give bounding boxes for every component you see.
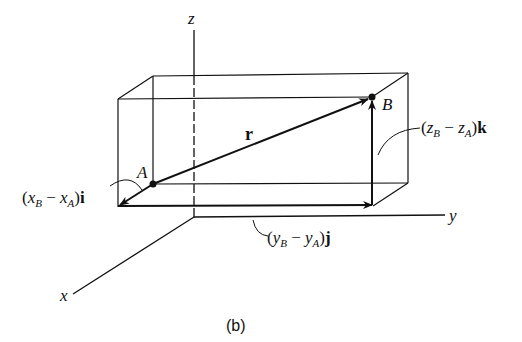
j-component-label: (yB − yA)j [267,228,331,249]
position-vector-diagram: z y x A B r (xB − xA)i (yB − yA)j (zB − … [0,0,522,342]
vector-r-label: r [245,124,253,144]
i-component-label: (xB − xA)i [22,188,85,209]
y-axis [194,215,445,217]
component-vectors [118,99,372,206]
point-a-label: A [136,163,148,182]
figure-caption: (b) [226,317,246,334]
vector-j [118,205,372,206]
coordinate-axes [73,30,445,294]
x-axis-label: x [59,286,68,305]
point-b-marker [369,94,376,101]
z-axis-label: z [187,9,195,28]
vector-r [153,99,368,184]
y-axis-label: y [447,206,457,225]
k-component-label: (zB − zA)k [421,118,487,139]
point-a-marker [150,181,157,188]
point-b-label: B [382,95,393,114]
vector-i [120,184,153,205]
x-axis [73,217,194,294]
